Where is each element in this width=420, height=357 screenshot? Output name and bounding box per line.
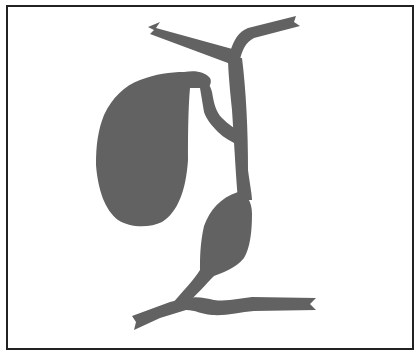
left-hepatic-duct: [148, 22, 242, 66]
right-hepatic-duct: [230, 16, 300, 62]
common-bile-duct: [172, 192, 252, 304]
gallbladder: [96, 71, 211, 226]
biliary-diagram: [0, 0, 420, 357]
duodenal-duct-segment: [132, 297, 316, 330]
